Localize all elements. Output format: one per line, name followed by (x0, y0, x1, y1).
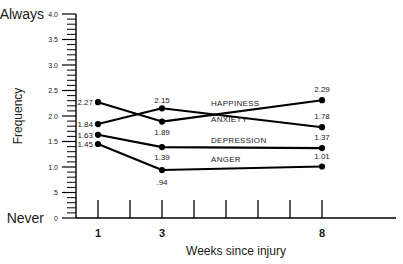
series-depression-point-w8 (319, 145, 325, 151)
y-tick-label-4: 4.0 (48, 11, 58, 18)
point-label-depression-w1: 1.63 (77, 131, 93, 140)
series-anxiety-point-w3 (159, 105, 165, 111)
line-chart-canvas: 4.0 3.5 3.0 2.5 2.0 1.5 1.0 .5 0 1 (0, 0, 403, 264)
point-label-anger-w1: 1.45 (77, 140, 93, 149)
y-anchor-top-label: Always (0, 6, 44, 22)
y-tick-label-1: 1.0 (48, 164, 58, 171)
point-label-depression-w3: 1.39 (154, 153, 170, 162)
x-axis-title: Weeks since injury (186, 244, 286, 258)
series-anger-point-w8 (319, 163, 325, 169)
y-tick-label-3: 3.0 (48, 62, 58, 69)
point-label-anger-w8: 1.01 (314, 152, 330, 161)
series-label-anger: ANGER (211, 155, 241, 164)
point-label-anxiety-w8: 1.78 (314, 112, 330, 121)
series-happiness-point-w3 (159, 119, 165, 125)
series-anxiety-point-w8 (319, 124, 325, 130)
point-label-happiness-w8: 2.29 (314, 85, 330, 94)
series-label-depression: DEPRESSION (211, 136, 266, 145)
series-anxiety-point-w1 (95, 121, 101, 127)
point-label-depression-w8: 1.37 (314, 133, 330, 142)
series-happiness-point-w1 (95, 99, 101, 105)
series-depression-point-w1 (95, 132, 101, 138)
point-label-anxiety-w1: 1.84 (77, 120, 93, 129)
y-anchor-bottom-label: Never (7, 210, 45, 226)
point-label-anxiety-w3: 2.15 (154, 96, 170, 105)
y-axis-title: Frequency (11, 88, 25, 145)
series-label-happiness: HAPPINESS (211, 99, 260, 108)
series-label-anxiety: ANXIETY (211, 115, 248, 124)
x-tick-label-week-3: 3 (159, 227, 165, 239)
point-label-anger-w3: .94 (156, 178, 168, 187)
series-anger-point-w1 (95, 141, 101, 147)
y-tick-label-1.5: 1.5 (48, 138, 58, 145)
series-anger-point-w3 (159, 167, 165, 173)
y-tick-label-0.5: .5 (52, 189, 58, 196)
y-tick-label-3.5: 3.5 (48, 36, 58, 43)
point-label-happiness-w1: 2.27 (77, 98, 93, 107)
y-tick-label-0: 0 (54, 215, 58, 222)
x-tick-label-week-1: 1 (95, 227, 101, 239)
y-tick-label-2.5: 2.5 (48, 87, 58, 94)
x-tick-label-week-8: 8 (319, 227, 325, 239)
chart-background (0, 0, 403, 264)
chart-figure: 4.0 3.5 3.0 2.5 2.0 1.5 1.0 .5 0 1 (0, 0, 403, 264)
series-happiness-point-w8 (319, 97, 325, 103)
point-label-happiness-w3: 1.89 (154, 128, 170, 137)
y-tick-label-2: 2.0 (48, 113, 58, 120)
series-depression-point-w3 (159, 144, 165, 150)
